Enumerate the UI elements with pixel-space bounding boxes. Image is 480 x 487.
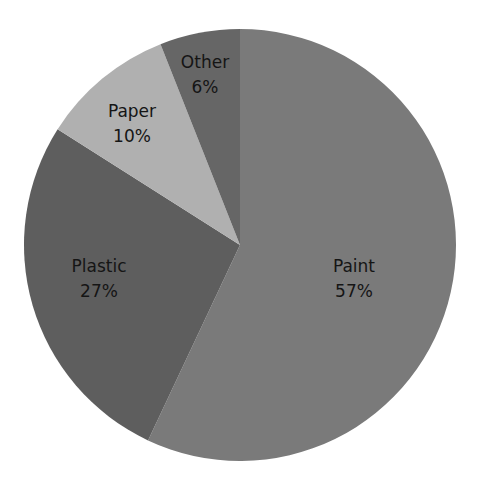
label-paper-name: Paper — [108, 101, 156, 121]
label-other-pct: 6% — [192, 77, 219, 97]
label-paint-name: Paint — [333, 256, 375, 276]
label-plastic-pct: 27% — [80, 281, 118, 301]
label-other-name: Other — [181, 52, 229, 72]
label-plastic-name: Plastic — [72, 256, 127, 276]
label-paint-pct: 57% — [335, 281, 373, 301]
pie-chart: Paint 57% Plastic 27% Paper 10% Other 6% — [0, 0, 480, 487]
pie-slices — [24, 29, 456, 461]
label-paper-pct: 10% — [113, 126, 151, 146]
